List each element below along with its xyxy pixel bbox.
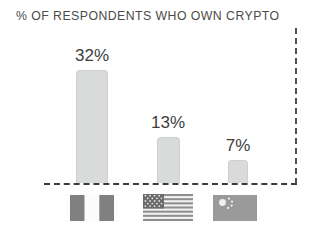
- plot-area: 32% 13% 7%: [0, 0, 319, 230]
- bar-3[interactable]: [228, 160, 248, 183]
- bar-value-label-2: 13%: [138, 113, 198, 133]
- bar-group-2: 13%: [138, 113, 198, 183]
- bar-group-1: 32%: [62, 63, 122, 183]
- flag-united-states-icon: [143, 194, 193, 221]
- x-axis-baseline: [44, 183, 297, 185]
- bar-group-3: 7%: [208, 137, 268, 183]
- y-axis-right: [295, 28, 297, 184]
- crypto-ownership-bar-chart: % OF RESPONDENTS WHO OWN CRYPTO 32% 13% …: [0, 0, 319, 230]
- bar-1[interactable]: [76, 70, 108, 183]
- flag-china-icon: [213, 195, 257, 221]
- bar-2[interactable]: [157, 137, 180, 183]
- bar-value-label-1: 32%: [62, 46, 122, 66]
- flag-nigeria-icon: [70, 195, 114, 221]
- bar-value-label-3: 7%: [208, 136, 268, 156]
